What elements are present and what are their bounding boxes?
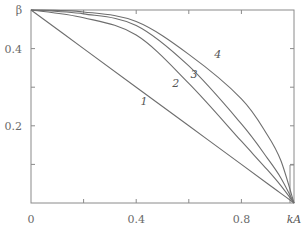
curve-label-1: 1 bbox=[141, 95, 148, 108]
curves bbox=[31, 10, 294, 203]
x-label: kA bbox=[287, 213, 302, 226]
curve-label-2: 2 bbox=[171, 77, 179, 90]
curve-label-3: 3 bbox=[191, 68, 198, 81]
x-axis-labels: 00.40.8kA bbox=[28, 213, 302, 226]
x-label: 0.4 bbox=[127, 213, 145, 226]
curve-1 bbox=[31, 10, 294, 203]
x-label: 0 bbox=[28, 213, 35, 226]
line-chart: 00.40.8kA 0.20.4β 1234 bbox=[0, 0, 308, 230]
x-label: 0.8 bbox=[233, 213, 251, 226]
y-axis-labels: 0.20.4β bbox=[5, 4, 23, 133]
curve-label-4: 4 bbox=[213, 48, 221, 61]
y-label: β bbox=[16, 4, 22, 17]
y-label: 0.2 bbox=[5, 120, 23, 133]
y-label: 0.4 bbox=[5, 43, 23, 56]
